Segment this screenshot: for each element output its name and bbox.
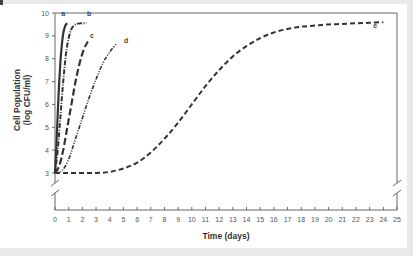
x-tick-label: 17	[284, 216, 292, 223]
x-tick-label: 4	[108, 216, 112, 223]
x-tick-label: 14	[243, 216, 251, 223]
curve-label-a: a	[61, 10, 65, 17]
x-tick-label: 12	[215, 216, 223, 223]
x-tick-label: 25	[393, 216, 401, 223]
x-tick-label: 10	[188, 216, 196, 223]
y-tick-label: 6	[45, 101, 49, 108]
y-tick-label: 9	[45, 32, 49, 39]
y-tick-label: 3	[45, 170, 49, 177]
x-tick-label: 15	[256, 216, 264, 223]
x-tick-label: 21	[338, 216, 346, 223]
x-tick-label: 9	[176, 216, 180, 223]
x-tick-label: 5	[121, 216, 125, 223]
x-tick-label: 2	[80, 216, 84, 223]
x-tick-label: 22	[352, 216, 360, 223]
y-axis-title: Cell Population (log CFU/ml)	[12, 69, 32, 131]
x-tick-label: 3	[94, 216, 98, 223]
curve-e	[55, 22, 383, 173]
curve-label-e: e	[373, 22, 377, 29]
y-tick-label: 8	[45, 55, 49, 62]
x-tick-label: 6	[135, 216, 139, 223]
curve-label-b: b	[87, 10, 91, 17]
y-axis-title-line-2: (log CFU/ml)	[22, 75, 32, 126]
chart-svg: 345678910 012345678910111213141516171819…	[0, 0, 413, 256]
y-axis-ticks: 345678910	[41, 10, 55, 177]
x-tick-label: 7	[149, 216, 153, 223]
plot-frame	[51, 13, 401, 210]
y-tick-label: 5	[45, 124, 49, 131]
x-tick-label: 13	[229, 216, 237, 223]
x-axis-ticks: 0123456789101112131415161718192021222324…	[53, 207, 401, 223]
x-tick-label: 0	[53, 216, 57, 223]
y-tick-label: 10	[41, 10, 49, 17]
y-tick-label: 7	[45, 78, 49, 85]
x-tick-label: 11	[202, 216, 209, 223]
curve-label-d: d	[124, 37, 128, 44]
x-tick-label: 19	[311, 216, 319, 223]
y-tick-label: 4	[45, 147, 49, 154]
curve-label-c: c	[90, 32, 94, 39]
curve-b	[55, 23, 86, 173]
y-axis-title-line-1: Cell Population	[12, 69, 22, 131]
x-tick-label: 23	[366, 216, 374, 223]
curve-labels: abcde	[61, 10, 377, 43]
x-tick-label: 1	[67, 216, 71, 223]
x-axis-title: Time (days)	[202, 231, 249, 241]
x-tick-label: 24	[379, 216, 387, 223]
x-tick-label: 8	[162, 216, 166, 223]
x-tick-label: 18	[297, 216, 305, 223]
curves	[55, 22, 383, 173]
x-tick-label: 20	[325, 216, 333, 223]
x-tick-label: 16	[270, 216, 278, 223]
